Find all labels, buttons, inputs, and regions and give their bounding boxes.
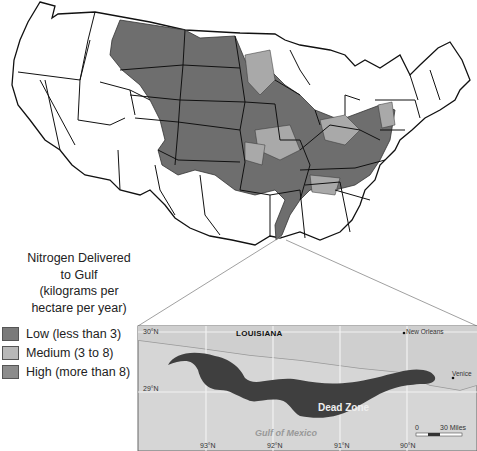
lon-label-93: 93°N bbox=[200, 442, 216, 449]
legend-item-high: High (more than 8) bbox=[2, 362, 160, 381]
basin-medium-4 bbox=[310, 175, 340, 195]
legend: Nitrogen Delivered to Gulf (kilograms pe… bbox=[0, 250, 160, 381]
scale-bar bbox=[416, 433, 462, 436]
lon-label-91: 91°N bbox=[334, 442, 350, 449]
gulf-of-mexico-label: Gulf of Mexico bbox=[255, 428, 317, 438]
new-orleans-dot bbox=[403, 332, 406, 335]
lon-label-92: 92°N bbox=[267, 442, 283, 449]
legend-item-low: Low (less than 3) bbox=[2, 324, 160, 343]
venice-dot bbox=[452, 377, 455, 380]
legend-label: High (more than 8) bbox=[26, 365, 130, 379]
lat-label-30: 30°N bbox=[143, 328, 159, 335]
us-map bbox=[0, 0, 477, 451]
legend-title-line: Nitrogen Delivered bbox=[0, 250, 158, 267]
lon-label-90: 90°N bbox=[400, 442, 416, 449]
legend-label: Medium (3 to 8) bbox=[26, 346, 114, 360]
legend-title-line: to Gulf bbox=[0, 267, 158, 284]
swatch-high bbox=[2, 365, 19, 379]
new-orleans-label: New Orleans bbox=[406, 328, 444, 335]
legend-title-line: (kilograms per bbox=[0, 283, 158, 300]
legend-label: Low (less than 3) bbox=[26, 327, 121, 341]
louisiana-label: LOUISIANA bbox=[236, 329, 283, 338]
lat-label-29: 29°N bbox=[143, 385, 159, 392]
scale-end-label: 30 Miles bbox=[440, 424, 466, 431]
legend-title: Nitrogen Delivered to Gulf (kilograms pe… bbox=[0, 250, 158, 316]
swatch-low bbox=[2, 327, 19, 341]
scale-start-label: 0 bbox=[415, 424, 419, 431]
dead-zone-label: Dead Zone bbox=[318, 402, 369, 413]
legend-item-medium: Medium (3 to 8) bbox=[2, 343, 160, 362]
projection-line-right bbox=[286, 240, 477, 326]
legend-title-line: hectare per year) bbox=[0, 300, 158, 317]
swatch-medium bbox=[2, 346, 19, 360]
venice-label: Venice bbox=[452, 370, 472, 377]
